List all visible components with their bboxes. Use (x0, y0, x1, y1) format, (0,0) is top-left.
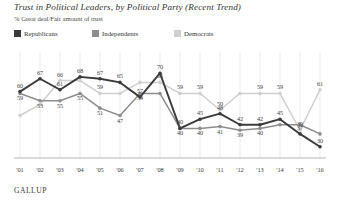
data-point-dem (278, 92, 282, 96)
x-tick-label: '09 (176, 166, 184, 173)
legend-label: Independents (102, 30, 138, 37)
data-point-dem (138, 81, 142, 85)
x-tick-label: '02 (36, 166, 44, 173)
data-point-rep (318, 145, 322, 149)
x-tick-label: '04 (76, 166, 84, 173)
data-point-rep (38, 77, 42, 81)
data-label-dem: 61 (317, 80, 323, 87)
x-tick-label: '05 (96, 166, 104, 173)
data-label-ind: 40 (197, 129, 203, 136)
data-label-rep: 67 (37, 69, 43, 76)
data-point-ind (318, 132, 322, 136)
legend-item-independents[interactable]: Independents (92, 30, 138, 37)
data-label-rep: 70 (157, 63, 163, 70)
data-label-ind: 59 (137, 94, 143, 101)
data-point-ind (278, 123, 282, 127)
data-label-dem: 59 (277, 83, 283, 90)
x-tick-label: '15 (296, 166, 304, 173)
data-point-rep (278, 117, 282, 121)
data-label-ind: 59 (17, 94, 23, 101)
source-attribution: GALLUP (14, 186, 47, 195)
data-label-ind: 41 (217, 128, 223, 135)
x-tick-label: '03 (56, 166, 64, 173)
x-tick-label: '14 (276, 166, 284, 173)
data-label-dem: 59 (177, 83, 183, 90)
data-label-ind: 40 (177, 129, 183, 136)
x-tick-label: '06 (116, 166, 124, 173)
legend-label: Democrats (184, 30, 213, 37)
data-point-dem (18, 114, 22, 118)
data-label-dem: 59 (197, 83, 203, 90)
data-label-rep: 40 (177, 118, 183, 125)
x-tick-label: '11 (216, 166, 223, 173)
data-label-dem: 39 (297, 120, 303, 127)
data-point-dem (238, 92, 242, 96)
data-label-ind: 39 (237, 131, 243, 138)
data-label-ind: 53 (37, 102, 43, 109)
data-label-dem: 66 (57, 71, 63, 78)
series-line-dem (20, 81, 320, 131)
data-label-dem: 59 (97, 83, 103, 90)
x-tick-label: '16 (316, 166, 324, 173)
data-point-dem (118, 92, 122, 96)
line-chart-svg: 6067616867655770404548424245373059535555… (14, 52, 326, 164)
data-label-rep: 45 (277, 109, 283, 116)
x-axis-tick-labels: '01'02'03'04'05'06'07'08'09'10'11'12'13'… (14, 166, 326, 180)
chart-subtitle: % Great deal/Fair amount of trust (14, 15, 103, 22)
data-point-rep (98, 77, 102, 81)
data-point-dem (158, 81, 162, 85)
data-label-rep: 42 (257, 115, 263, 122)
data-point-rep (58, 88, 62, 92)
data-point-rep (218, 112, 222, 116)
data-label-rep: 60 (17, 82, 23, 89)
data-label-dem: 59 (257, 83, 263, 90)
data-point-dem (198, 92, 202, 96)
data-point-dem (318, 88, 322, 92)
data-point-rep (18, 90, 22, 94)
data-label-rep: 57 (137, 87, 143, 94)
legend-item-democrats[interactable]: Democrats (174, 30, 213, 37)
x-tick-label: '10 (196, 166, 204, 173)
x-tick-label: '13 (256, 166, 264, 173)
data-point-rep (78, 75, 82, 79)
legend-swatch-icon (14, 30, 21, 37)
data-label-rep: 65 (117, 72, 123, 79)
data-point-rep (198, 117, 202, 121)
data-label-dem: 65 (157, 72, 163, 79)
data-label-rep: 30 (317, 137, 323, 144)
data-label-dem: 50 (217, 100, 223, 107)
data-point-dem (258, 92, 262, 96)
chart-plot-area: 6067616867655770404548424245373059535555… (14, 52, 326, 164)
data-label-ind: 40 (257, 129, 263, 136)
legend-item-republicans[interactable]: Republicans (14, 30, 58, 37)
data-label-ind: 51 (97, 109, 103, 116)
legend-label: Republicans (24, 30, 58, 37)
x-tick-label: '01 (16, 166, 24, 173)
legend-swatch-icon (174, 30, 181, 37)
data-point-rep (258, 123, 262, 127)
data-label-rep: 45 (197, 109, 203, 116)
x-tick-label: '07 (136, 166, 144, 173)
data-label-rep: 42 (237, 115, 243, 122)
data-point-dem (98, 92, 102, 96)
data-label-ind: 55 (57, 102, 63, 109)
x-tick-label: '08 (156, 166, 164, 173)
data-label-rep: 61 (57, 80, 63, 87)
x-tick-label: '12 (236, 166, 244, 173)
data-point-rep (298, 132, 302, 136)
data-label-rep: 68 (77, 67, 83, 74)
data-point-rep (238, 123, 242, 127)
legend-swatch-icon (92, 30, 99, 37)
data-label-rep: 67 (97, 69, 103, 76)
data-label-ind: 55 (77, 94, 83, 101)
data-point-dem (78, 79, 82, 83)
data-point-dem (178, 92, 182, 96)
data-point-rep (118, 81, 122, 85)
page-title: Trust in Political Leaders, by Political… (14, 2, 241, 12)
chart-page: Trust in Political Leaders, by Political… (0, 0, 337, 208)
data-label-ind: 47 (117, 117, 123, 124)
data-point-ind (158, 92, 162, 96)
